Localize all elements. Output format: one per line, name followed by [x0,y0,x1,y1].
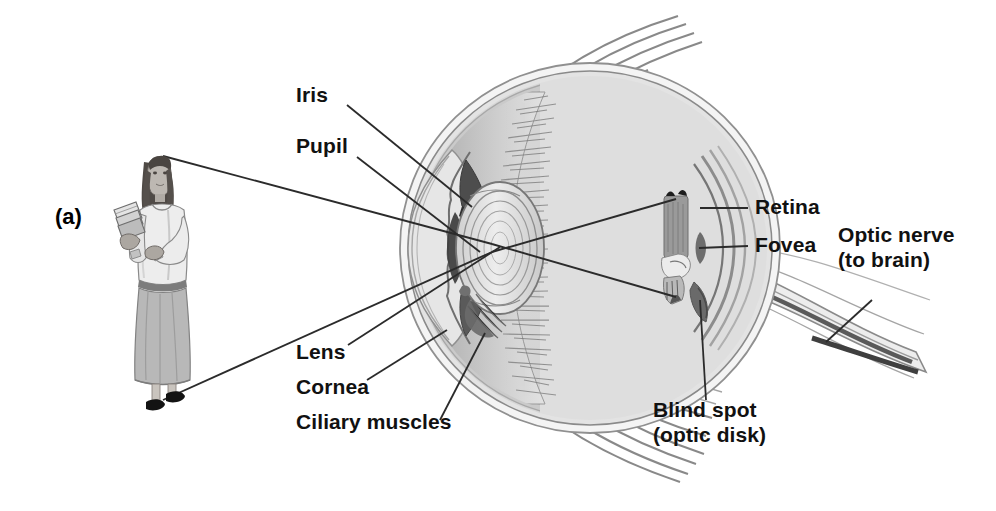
label-ciliary-muscles: Ciliary muscles [296,410,452,435]
label-blind-spot-line1: Blind spot [653,398,766,423]
label-optic-nerve-line1: Optic nerve [838,223,955,248]
observer-figure-woman [108,140,228,420]
label-iris: Iris [296,83,328,108]
label-optic-nerve: Optic nerve (to brain) [838,223,955,273]
label-fovea: Fovea [755,233,816,258]
label-cornea: Cornea [296,375,369,400]
label-retina: Retina [755,195,820,220]
label-lens: Lens [296,340,345,365]
panel-label: (a) [55,204,82,230]
label-pupil: Pupil [296,134,348,159]
figure-canvas: (a) Iris Pupil Lens Cornea Ciliary muscl… [0,0,996,511]
label-blind-spot-line2: (optic disk) [653,423,766,448]
label-blind-spot: Blind spot (optic disk) [653,398,766,448]
label-optic-nerve-line2: (to brain) [838,248,955,273]
